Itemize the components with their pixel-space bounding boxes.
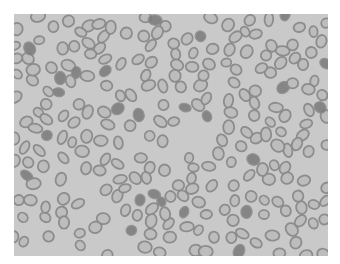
- red-blood-cells-field: [14, 14, 328, 256]
- blood-smear-photo: [14, 14, 328, 256]
